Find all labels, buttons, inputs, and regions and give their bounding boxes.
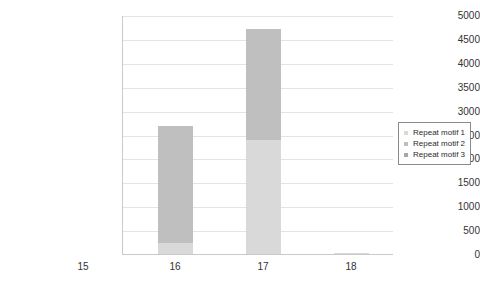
bar-segment[interactable] — [158, 243, 193, 254]
x-tick-label: 18 — [321, 262, 381, 272]
legend-item-label: Repeat motif 3 — [413, 149, 465, 160]
legend-item[interactable]: Repeat motif 2 — [403, 138, 465, 149]
x-tick-label: 15 — [53, 262, 113, 272]
bar-chart: 0 500 1000 1500 2000 2500 3000 3500 4000… — [0, 0, 480, 282]
legend-swatch-icon — [404, 142, 408, 146]
x-tick-label: 16 — [145, 262, 205, 272]
x-tick-label: 17 — [233, 262, 293, 272]
legend-item[interactable]: Repeat motif 1 — [403, 127, 465, 138]
legend-item[interactable]: Repeat motif 3 — [403, 149, 465, 160]
plot-area — [122, 16, 393, 255]
legend-item-label: Repeat motif 1 — [413, 127, 465, 138]
bar-segment[interactable] — [246, 140, 281, 254]
bar-segment[interactable] — [334, 253, 369, 254]
legend-swatch-icon — [404, 131, 408, 135]
chart-legend[interactable]: Repeat motif 1 Repeat motif 2 Repeat mot… — [398, 122, 471, 165]
bar-segment[interactable] — [246, 29, 281, 140]
legend-item-label: Repeat motif 2 — [413, 138, 465, 149]
gridline — [123, 16, 393, 17]
legend-swatch-icon — [404, 153, 408, 157]
bar-segment[interactable] — [158, 126, 193, 243]
